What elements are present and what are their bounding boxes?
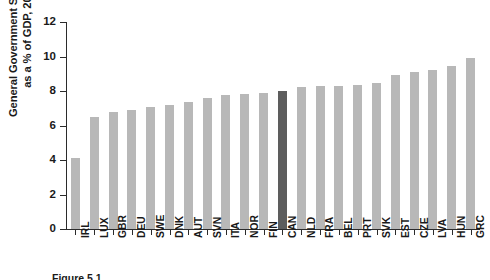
x-tick-label-swe: SWE bbox=[155, 215, 166, 238]
bar-lux bbox=[90, 117, 99, 229]
x-tick-mark bbox=[414, 230, 415, 235]
x-tick-mark bbox=[339, 230, 340, 235]
x-tick-mark bbox=[282, 230, 283, 235]
x-tick-mark bbox=[113, 230, 114, 235]
x-tick-mark bbox=[94, 230, 95, 235]
y-axis-title-line-2: as a % of GDP, 2016 bbox=[21, 0, 35, 88]
chart-figure: General Government Spending as a % of GD… bbox=[0, 0, 490, 280]
x-tick-mark bbox=[170, 230, 171, 235]
bar-swe bbox=[146, 107, 155, 229]
x-tick-label-svk: SVK bbox=[381, 217, 392, 238]
x-tick-mark bbox=[452, 230, 453, 235]
x-tick-label-irl: IRL bbox=[80, 221, 91, 238]
x-tick-mark bbox=[320, 230, 321, 235]
y-tick-mark bbox=[60, 229, 66, 230]
x-tick-label-cze: CZE bbox=[419, 217, 430, 238]
plot-area bbox=[66, 22, 480, 229]
x-tick-mark bbox=[151, 230, 152, 235]
x-tick-label-aut: AUT bbox=[193, 217, 204, 238]
y-tick-label: 10 bbox=[30, 49, 56, 61]
bar-deu bbox=[127, 110, 136, 229]
bar-irl bbox=[71, 158, 80, 229]
x-tick-mark bbox=[301, 230, 302, 235]
x-tick-label-lux: LUX bbox=[99, 217, 110, 238]
x-tick-mark bbox=[207, 230, 208, 235]
x-tick-label-lva: LVA bbox=[437, 219, 448, 238]
bar-prt bbox=[353, 85, 362, 229]
y-tick-label: 6 bbox=[30, 118, 56, 130]
x-tick-mark bbox=[75, 230, 76, 235]
x-tick-label-fra: FRA bbox=[324, 217, 335, 238]
x-tick-label-prt: PRT bbox=[362, 217, 373, 238]
y-tick-label: 0 bbox=[30, 222, 56, 234]
bar-svn bbox=[203, 98, 212, 229]
x-tick-mark bbox=[188, 230, 189, 235]
x-tick-mark bbox=[245, 230, 246, 235]
y-tick-label: 12 bbox=[30, 15, 56, 27]
x-tick-label-fin: FIN bbox=[268, 221, 279, 238]
x-tick-mark bbox=[358, 230, 359, 235]
y-tick-label: 2 bbox=[30, 187, 56, 199]
bar-ita bbox=[221, 95, 230, 229]
x-tick-mark bbox=[471, 230, 472, 235]
bar-gbr bbox=[109, 112, 118, 229]
x-tick-mark bbox=[377, 230, 378, 235]
x-tick-label-can: CAN bbox=[287, 216, 298, 238]
x-tick-label-hun: HUN bbox=[456, 216, 467, 238]
bar-nld bbox=[297, 87, 306, 229]
x-tick-mark bbox=[264, 230, 265, 235]
y-tick-label: 4 bbox=[30, 153, 56, 165]
bar-grc bbox=[466, 58, 475, 229]
x-tick-label-nor: NOR bbox=[249, 215, 260, 238]
bar-fra bbox=[316, 86, 325, 229]
bar-nor bbox=[240, 94, 249, 229]
x-tick-label-gbr: GBR bbox=[117, 215, 128, 238]
bar-bel bbox=[334, 86, 343, 229]
bar-hun bbox=[447, 66, 456, 229]
x-tick-label-est: EST bbox=[400, 218, 411, 238]
y-tick-label: 8 bbox=[30, 84, 56, 96]
x-tick-label-deu: DEU bbox=[136, 216, 147, 238]
x-tick-label-svn: SVN bbox=[212, 217, 223, 238]
x-tick-mark bbox=[433, 230, 434, 235]
bar-lva bbox=[428, 70, 437, 229]
y-axis-title-line-1: General Government Spending bbox=[7, 0, 21, 117]
x-tick-label-grc: GRC bbox=[475, 215, 486, 238]
bar-can bbox=[278, 91, 287, 229]
bar-aut bbox=[184, 102, 193, 229]
x-tick-label-dnk: DNK bbox=[174, 216, 185, 238]
x-tick-label-bel: BEL bbox=[343, 217, 354, 238]
x-tick-label-ita: ITA bbox=[230, 222, 241, 238]
x-tick-mark bbox=[132, 230, 133, 235]
x-tick-mark bbox=[395, 230, 396, 235]
bar-est bbox=[391, 75, 400, 229]
bar-fin bbox=[259, 93, 268, 229]
bar-cze bbox=[410, 72, 419, 229]
x-tick-mark bbox=[226, 230, 227, 235]
bar-svk bbox=[372, 83, 381, 229]
x-tick-label-nld: NLD bbox=[306, 217, 317, 238]
figure-caption: Figure 5.1 bbox=[52, 272, 490, 280]
bar-dnk bbox=[165, 105, 174, 229]
